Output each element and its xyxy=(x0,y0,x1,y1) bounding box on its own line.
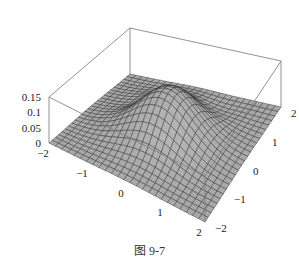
z-tick-label: 0.15 xyxy=(22,91,42,103)
box-edge xyxy=(130,28,281,61)
y-tick-label: 1 xyxy=(272,136,278,148)
z-axis-ticks: 00.050.10.15 xyxy=(22,91,42,149)
x-tick-label: 0 xyxy=(118,187,124,199)
surface-plot: 00.050.10.15 −2−1012 −2−1012 xyxy=(0,0,299,273)
y-tick-label: −1 xyxy=(234,193,246,205)
z-tick-label: 0.05 xyxy=(22,122,42,134)
y-tick-label: 0 xyxy=(253,165,259,177)
x-tick-label: 1 xyxy=(157,206,163,218)
x-tick-label: −2 xyxy=(37,147,49,159)
surface-mesh xyxy=(49,74,281,222)
x-tick-label: 2 xyxy=(196,226,202,238)
x-tick-label: −1 xyxy=(76,167,88,179)
z-tick-label: 0.1 xyxy=(27,106,41,118)
y-tick-label: −2 xyxy=(215,222,227,234)
y-tick-label: 2 xyxy=(291,107,297,119)
figure-caption: 图 9-7 xyxy=(0,241,299,259)
